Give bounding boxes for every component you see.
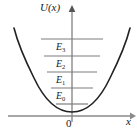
x-axis-label: x: [126, 116, 131, 127]
energy-level-label-e3: E3: [56, 42, 65, 52]
y-axis-label: U(x): [40, 2, 60, 13]
potential-well-figure: U(x) x 0 E3 E2 E1 E0: [0, 0, 137, 136]
energy-level-label-e2-sub: 2: [62, 63, 65, 70]
y-axis-arrow-icon: [69, 5, 76, 12]
figure-canvas: [0, 0, 137, 136]
energy-level-label-e3-sub: 3: [62, 46, 65, 53]
energy-level-label-e1: E1: [56, 75, 65, 85]
energy-level-label-e0: E0: [56, 91, 65, 101]
energy-level-label-e0-sub: 0: [62, 95, 65, 102]
energy-level-label-e2: E2: [56, 59, 65, 69]
energy-level-label-e1-sub: 1: [62, 79, 65, 86]
origin-label: 0: [66, 118, 72, 129]
